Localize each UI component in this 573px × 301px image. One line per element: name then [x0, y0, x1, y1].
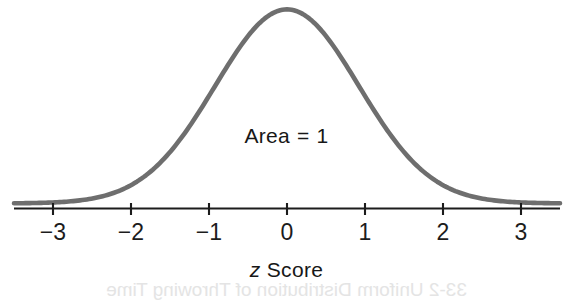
normal-distribution-figure: −3 −2 −1 0 1 2 3 Area=1 z Score 33-2 Uni… [0, 0, 573, 301]
area-annotation-value: 1 [317, 124, 329, 147]
area-annotation-prefix: Area [244, 124, 290, 147]
x-axis-title: z Score [0, 258, 573, 282]
x-tick-label-minus-2: −2 [101, 221, 161, 244]
x-tick-label-minus-1: −1 [179, 221, 239, 244]
x-tick-label-plus-1: 1 [335, 221, 395, 244]
area-annotation-operator: = [297, 124, 310, 147]
x-tick-label-minus-3: −3 [23, 221, 83, 244]
x-tick-label-plus-2: 2 [413, 221, 473, 244]
plot-canvas [0, 0, 573, 301]
x-axis-title-word: Score [267, 258, 323, 281]
area-annotation: Area=1 [0, 124, 573, 148]
x-tick-label-zero: 0 [257, 221, 317, 244]
normal-curve-path [14, 9, 560, 203]
x-tick-label-plus-3: 3 [491, 221, 551, 244]
x-axis-title-variable: z [250, 258, 261, 281]
